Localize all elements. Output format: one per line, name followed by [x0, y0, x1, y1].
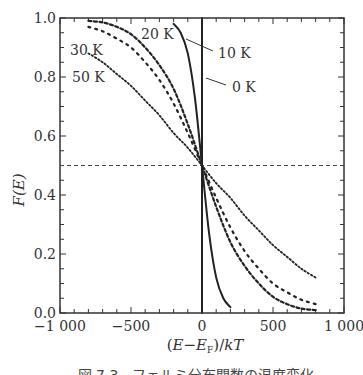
y-tick-label: 1.0	[34, 10, 56, 26]
y-axis-label: F(E)	[10, 173, 28, 207]
y-tick-label: 0.0	[34, 305, 56, 321]
annotation-20K: 20 K	[141, 26, 174, 42]
fermi-distribution-chart: −1 000−50005001 0000.00.20.40.60.81.0 20…	[0, 0, 363, 375]
y-tick-label: 0.2	[34, 246, 56, 262]
xlabel-E: E	[172, 336, 184, 354]
figure-caption: 図 7.3 フェルミ分布関数の温度変化	[78, 367, 315, 375]
xlabel-EF: E	[195, 336, 207, 354]
y-tick-label: 0.6	[34, 128, 56, 144]
annotation-10K-leader	[186, 39, 213, 51]
series-group	[88, 18, 315, 313]
annotation-0K: 0 K	[232, 79, 256, 95]
annotation-10K: 10 K	[218, 45, 251, 61]
x-axis-label: (E−EF)/kT	[167, 336, 245, 355]
xlabel-minus: −	[184, 336, 197, 354]
xlabel-kT: kT	[224, 336, 244, 354]
x-tick-label: 0	[198, 318, 207, 334]
axis-tick-labels: −1 000−50005001 0000.00.20.40.60.81.0	[34, 10, 363, 334]
x-tick-label: 500	[260, 318, 287, 334]
y-axis-label-text: F(E)	[10, 173, 28, 207]
x-tick-label: 1 000	[324, 318, 363, 334]
y-tick-label: 0.8	[34, 69, 56, 85]
annotation-30K: 30 K	[70, 42, 103, 58]
annotation-0K-leader	[206, 78, 226, 85]
x-tick-label: −500	[112, 318, 150, 334]
annotation-50K: 50 K	[72, 69, 105, 85]
y-tick-label: 0.4	[34, 187, 56, 203]
x-axis-label-text: (E−EF)/kT	[167, 336, 245, 355]
annotations: 20 K 30 K 50 K 10 K 0 K	[70, 26, 256, 95]
